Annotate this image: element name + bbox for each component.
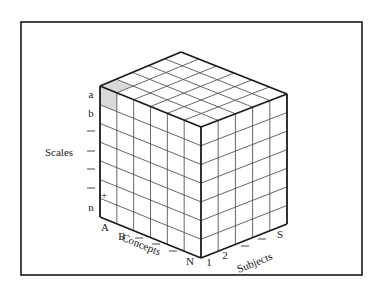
subjects-tick-label: S (277, 228, 283, 240)
subjects-tick-label: 1 (206, 256, 212, 268)
scales-tick-label: b (88, 107, 94, 119)
concepts-tick-label: B (118, 230, 125, 242)
subjects-axis-title: Subjects (235, 250, 274, 275)
plus-marker-icon: + (101, 189, 107, 201)
scales-tick-label: a (89, 88, 94, 100)
cube-diagram: Scalesabn+ConceptsABNSubjects12S (0, 0, 383, 293)
scales-tick-label: n (88, 201, 94, 213)
concepts-tick-label: N (186, 255, 194, 267)
figure: Scalesabn+ConceptsABNSubjects12S (0, 0, 383, 293)
subjects-tick-label: 2 (222, 249, 228, 261)
concepts-tick-label: A (101, 221, 109, 233)
scales-axis-title: Scales (45, 146, 73, 158)
